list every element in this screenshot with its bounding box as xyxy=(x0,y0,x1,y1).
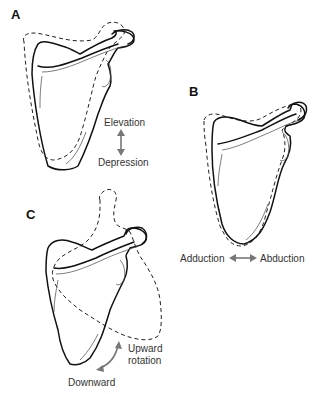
panel-a-glenoid xyxy=(102,60,111,87)
downward-label: Downward xyxy=(68,377,115,388)
adduction-abduction-arrow xyxy=(229,254,257,262)
panel-c-lateral-line xyxy=(80,334,98,360)
panel-a-lateral-line xyxy=(66,132,86,164)
elevation-depression-arrow xyxy=(117,129,125,156)
panel-c-letter: C xyxy=(26,207,36,222)
elevation-label: Elevation xyxy=(104,117,145,128)
rotation-label: rotation xyxy=(128,355,161,366)
scapula-motion-diagram: A Elevation Depression B xyxy=(0,0,324,394)
panel-b-scapula-outline xyxy=(212,104,305,244)
panel-a-scapula-outline xyxy=(32,31,134,170)
panel-c-spine-inner xyxy=(56,246,138,274)
depression-label: Depression xyxy=(98,157,149,168)
panel-c: C Upward rotation Downward xyxy=(26,189,162,388)
panel-b-letter: B xyxy=(189,84,198,99)
panel-a-scapular-spine xyxy=(38,44,118,67)
panel-b-medial-line xyxy=(218,154,222,186)
panel-b-lateral-line xyxy=(246,204,268,240)
adduction-label: Adduction xyxy=(180,253,224,264)
abduction-label: Abduction xyxy=(260,253,304,264)
panel-b: B Adduction Abduction xyxy=(180,84,307,264)
panel-a-medial-line xyxy=(40,76,42,108)
panel-a: A Elevation Depression xyxy=(11,7,149,170)
panel-c-acromion xyxy=(126,227,147,244)
upward-downward-rotation-arrow xyxy=(96,341,122,372)
panel-c-glenoid xyxy=(116,260,125,285)
panel-c-scapular-spine xyxy=(54,242,134,268)
panel-a-letter: A xyxy=(11,7,21,22)
upward-label: Upward xyxy=(128,343,162,354)
panel-c-rotated-outline xyxy=(52,189,161,339)
